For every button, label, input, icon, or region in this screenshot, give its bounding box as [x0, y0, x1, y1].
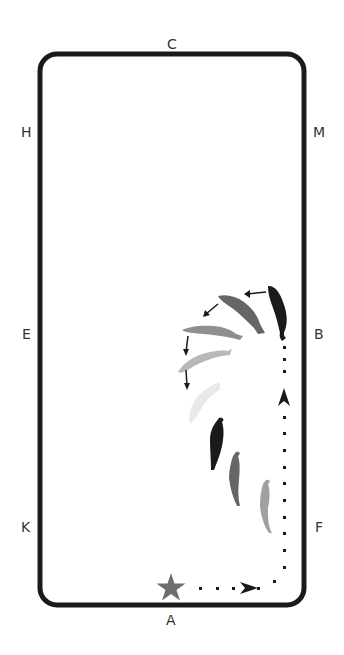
horse-icon: [210, 418, 224, 470]
letter-a: A: [166, 613, 176, 627]
letter-b: B: [314, 327, 324, 341]
direction-arrow-icon: [240, 582, 258, 594]
arc-arrows: [183, 290, 266, 390]
letter-e: E: [22, 327, 31, 341]
letter-m: M: [313, 125, 325, 139]
horse-icon: [268, 286, 287, 341]
horse-icon: [229, 452, 240, 506]
letter-h: H: [21, 125, 32, 139]
star-icon: [157, 573, 186, 601]
horse-icon: [260, 480, 272, 533]
horse-icon: [182, 326, 243, 340]
dotted-path-vertical: [283, 346, 286, 569]
arena-diagram: [0, 0, 344, 655]
direction-arrow-icon: [278, 388, 290, 406]
letter-k: K: [21, 520, 30, 534]
letter-c: C: [167, 37, 177, 51]
letter-f: F: [315, 520, 323, 534]
horse-icon: [189, 382, 220, 424]
dotted-path-bottom: [199, 580, 276, 590]
